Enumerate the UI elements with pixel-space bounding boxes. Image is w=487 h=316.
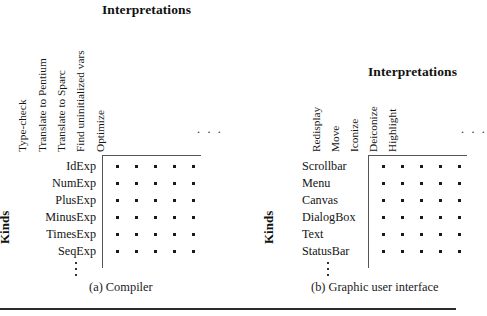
matrix-dot — [173, 165, 176, 168]
matrix-dot — [116, 165, 119, 168]
matrix-dot — [192, 250, 195, 253]
column-header-ellipsis: . . . — [197, 122, 223, 137]
matrix-dot — [382, 216, 385, 219]
matrix-dot — [192, 199, 195, 202]
row-label-plusexp: PlusExp — [10, 194, 96, 206]
figure-bottom-rule — [0, 308, 456, 310]
matrix-dot — [154, 233, 157, 236]
matrix-dot — [439, 165, 442, 168]
matrix-dot — [173, 199, 176, 202]
matrix-dot — [458, 165, 461, 168]
axis-label-kinds: Kinds — [0, 211, 13, 244]
matrix-dot — [116, 233, 119, 236]
matrix-dot — [382, 233, 385, 236]
matrix-dot — [458, 233, 461, 236]
matrix-dot — [458, 199, 461, 202]
matrix-dot — [420, 233, 423, 236]
row-label-ellipsis — [327, 262, 330, 280]
matrix-dot — [439, 216, 442, 219]
panel-compiler-title: Interpretations — [102, 2, 191, 18]
matrix-dot — [135, 165, 138, 168]
matrix-dot — [154, 216, 157, 219]
column-header-ellipsis: . . . — [461, 122, 487, 137]
caption-gui: (b) Graphic user interface — [311, 280, 439, 295]
matrix-dot — [382, 250, 385, 253]
matrix-dot — [439, 182, 442, 185]
row-label-statusbar: StatusBar — [302, 245, 368, 257]
matrix-dot — [135, 182, 138, 185]
matrix-dot — [420, 182, 423, 185]
matrix-dot — [135, 233, 138, 236]
matrix-dot — [420, 216, 423, 219]
row-label-minusexp: MinusExp — [10, 211, 96, 223]
matrix-top-rule — [368, 155, 467, 156]
matrix-dot — [401, 199, 404, 202]
row-label-timesexp: TimesExp — [10, 228, 96, 240]
matrix-dot — [154, 199, 157, 202]
matrix-dot — [401, 233, 404, 236]
row-label-text: Text — [302, 228, 364, 240]
matrix-dot — [173, 233, 176, 236]
matrix-dot — [173, 216, 176, 219]
matrix-dot — [135, 216, 138, 219]
matrix-left-rule — [102, 156, 103, 268]
matrix-dot — [439, 233, 442, 236]
matrix-dot — [135, 250, 138, 253]
matrix-dot — [173, 250, 176, 253]
matrix-dot — [116, 182, 119, 185]
matrix-dot — [439, 199, 442, 202]
matrix-dot — [439, 250, 442, 253]
column-header-highlight: Highlight — [387, 109, 451, 152]
matrix-dot — [420, 250, 423, 253]
row-label-numexp: NumExp — [10, 177, 96, 189]
matrix-dot — [458, 250, 461, 253]
matrix-dot — [401, 216, 404, 219]
matrix-dot — [420, 199, 423, 202]
row-label-menu: Menu — [302, 177, 364, 189]
row-label-scrollbar: Scrollbar — [302, 160, 364, 172]
matrix-top-rule — [102, 155, 201, 156]
row-label-dialogbox: DialogBox — [302, 211, 368, 223]
matrix-dot — [192, 216, 195, 219]
matrix-dot — [192, 165, 195, 168]
matrix-dot — [401, 165, 404, 168]
panel-gui-title: Interpretations — [368, 64, 457, 80]
row-label-ellipsis — [75, 262, 78, 280]
matrix-dot — [116, 216, 119, 219]
matrix-dot — [458, 182, 461, 185]
matrix-dot — [382, 199, 385, 202]
axis-label-kinds: Kinds — [261, 211, 277, 244]
matrix-dot — [382, 165, 385, 168]
matrix-dot — [401, 182, 404, 185]
column-header-optimize: Optimize — [95, 110, 187, 152]
matrix-dot — [154, 165, 157, 168]
matrix-dot — [154, 250, 157, 253]
matrix-dot — [192, 233, 195, 236]
row-label-idexp: IdExp — [10, 160, 96, 172]
matrix-dot — [154, 182, 157, 185]
caption-compiler: (a) Compiler — [89, 280, 153, 295]
matrix-dot — [135, 199, 138, 202]
matrix-dot — [420, 165, 423, 168]
matrix-dot — [116, 250, 119, 253]
matrix-dot — [116, 199, 119, 202]
row-label-canvas: Canvas — [302, 194, 364, 206]
matrix-left-rule — [368, 156, 369, 268]
matrix-dot — [401, 250, 404, 253]
matrix-dot — [192, 182, 195, 185]
row-label-seqexp: SeqExp — [10, 245, 96, 257]
matrix-dot — [382, 182, 385, 185]
matrix-dot — [458, 216, 461, 219]
matrix-dot — [173, 182, 176, 185]
